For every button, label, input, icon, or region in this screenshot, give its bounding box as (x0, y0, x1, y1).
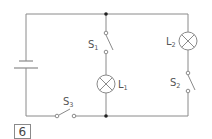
battery-icon (14, 61, 38, 68)
label-l1: L1 (118, 79, 128, 92)
lamp-l1-icon (97, 75, 115, 93)
label-l2: L2 (166, 36, 176, 49)
switch-s2-icon (186, 71, 195, 93)
label-s1: S1 (88, 39, 99, 52)
lamp-l2-icon (179, 32, 197, 50)
label-s2: S2 (170, 77, 181, 90)
switch-s3-icon (55, 109, 76, 118)
junction-top (104, 12, 108, 16)
figure-number: 6 (19, 125, 27, 139)
switch-s1-icon (104, 31, 113, 54)
circuit-diagram: S1 L1 L2 S2 S3 6 (0, 0, 212, 139)
junction-bottom (104, 114, 108, 118)
label-s3: S3 (63, 96, 74, 109)
